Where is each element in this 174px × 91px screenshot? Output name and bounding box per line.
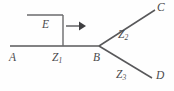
impedance-label-z1: Z1	[52, 52, 62, 64]
node-label-c: C	[157, 2, 165, 14]
impedance-label-z2-base: Z	[118, 28, 124, 40]
source-label-e: E	[42, 19, 49, 31]
node-label-d: D	[156, 70, 164, 82]
impedance-label-z1-base: Z	[52, 51, 58, 63]
node-label-b: B	[93, 52, 100, 64]
figure-container: A B C D E Z1 Z2 Z3	[0, 0, 174, 91]
impedance-label-z2: Z2	[118, 29, 128, 41]
diagram-canvas	[0, 0, 174, 91]
impedance-label-z2-subscript: 2	[125, 33, 129, 42]
node-label-a: A	[9, 52, 16, 64]
direction-arrow-head-icon	[79, 22, 86, 31]
impedance-label-z3-subscript: 3	[123, 73, 127, 82]
impedance-label-z3-base: Z	[116, 68, 122, 80]
impedance-label-z1-subscript: 1	[59, 56, 63, 65]
impedance-label-z3: Z3	[116, 69, 126, 81]
